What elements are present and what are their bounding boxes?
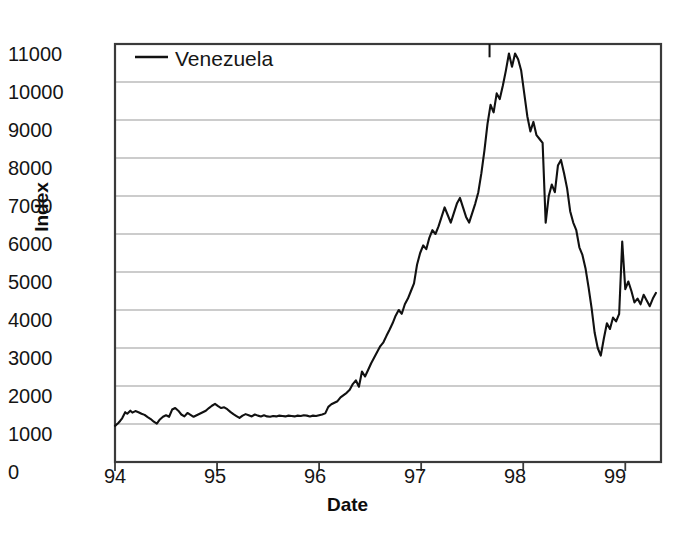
y-tick-label: 2000: [8, 385, 53, 407]
x-tick-label: 95: [185, 466, 245, 486]
series-line-venezuela: [115, 54, 656, 426]
x-axis-title: Date: [0, 494, 695, 516]
y-tick-label: 1000: [8, 423, 53, 445]
legend-entry-label: Venezuela: [175, 48, 273, 69]
y-tick-label: 9000: [8, 119, 53, 141]
x-tick-label: 97: [385, 466, 445, 486]
plot-canvas: [0, 0, 695, 544]
y-tick-label: 0: [8, 461, 19, 483]
x-tick-label: 96: [285, 466, 345, 486]
x-tick-label: 98: [485, 466, 545, 486]
y-tick-label: 11000: [8, 43, 62, 65]
y-tick-label: 10000: [8, 81, 64, 103]
y-tick-label: 4000: [8, 309, 53, 331]
gridlines: [115, 82, 661, 424]
x-tick-label: 94: [85, 466, 145, 486]
y-tick-label: 8000: [8, 157, 53, 179]
plot-frame: [115, 44, 661, 462]
x-tick-label: 99: [585, 466, 645, 486]
y-tick-label: 7000: [8, 195, 53, 217]
y-tick-label: 6000: [8, 233, 53, 255]
y-tick-label: 5000: [8, 271, 53, 293]
chart-figure: Index Date 11000 10000 9000 8000 7000 60…: [0, 0, 695, 544]
y-tick-label: 3000: [8, 347, 53, 369]
